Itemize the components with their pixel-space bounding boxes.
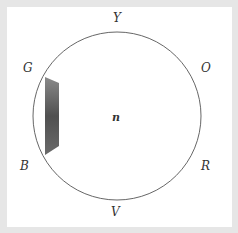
colour-circle-diagram: Y O R V B G n [0,0,238,233]
label-b: B [19,159,29,173]
label-o: O [201,61,211,75]
center-label-n: n [112,111,120,124]
shaded-segment [45,77,59,155]
label-g: G [23,61,33,75]
label-r: R [200,159,210,173]
label-y: Y [113,11,122,25]
label-v: V [111,205,121,219]
